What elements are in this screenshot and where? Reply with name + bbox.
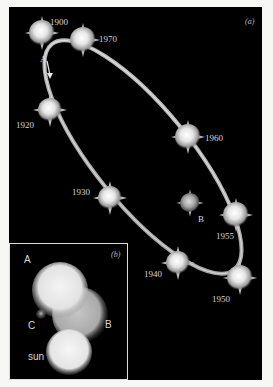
star-b-label: B bbox=[198, 215, 204, 224]
star-1930 bbox=[93, 181, 127, 215]
year-label-1920: 1920 bbox=[16, 121, 34, 130]
year-label-1960: 1960 bbox=[205, 134, 223, 143]
sun-disc bbox=[46, 329, 92, 375]
sun-label: sun bbox=[28, 352, 44, 362]
year-label-1970: 1970 bbox=[99, 35, 117, 44]
body-c-label: C bbox=[28, 321, 35, 331]
panel-b-label: (b) bbox=[111, 250, 120, 259]
year-label-1900: 1900 bbox=[50, 18, 68, 27]
body-c-disc bbox=[36, 309, 46, 319]
binary-orbit-figure: 1900 1970 A 1920 1960 1930 B 1955 1940 1… bbox=[9, 7, 262, 380]
star-1950 bbox=[223, 261, 257, 295]
panel-a-label: (a) bbox=[245, 17, 254, 26]
year-label-1930: 1930 bbox=[72, 188, 90, 197]
body-b-label: B bbox=[105, 320, 112, 330]
year-label-1940: 1940 bbox=[144, 270, 162, 279]
star-1940 bbox=[161, 246, 195, 280]
year-label-1955: 1955 bbox=[216, 232, 234, 241]
star-a-label: A bbox=[40, 55, 47, 64]
year-label-1950: 1950 bbox=[212, 295, 230, 304]
direction-arrow-icon bbox=[47, 61, 53, 79]
star-1955 bbox=[219, 198, 253, 232]
star-1960 bbox=[171, 120, 205, 154]
size-comparison-inset: A B C sun (b) bbox=[9, 243, 128, 380]
star-b-center bbox=[176, 189, 203, 216]
body-a-label: A bbox=[24, 255, 31, 265]
